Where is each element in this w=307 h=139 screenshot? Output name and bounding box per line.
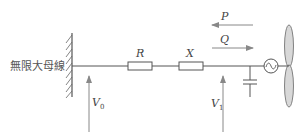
reactance-label: X — [185, 47, 195, 60]
busbar-label: 無限大母線 — [10, 59, 65, 73]
resistor-label: R — [135, 47, 144, 60]
wind-turbine-blades-icon — [278, 25, 294, 107]
resistor — [128, 62, 152, 70]
voltage-v0-label: V0 — [92, 96, 104, 111]
generator-icon — [264, 59, 278, 73]
power-system-diagram: 無限大母線 R X P Q V0 V1 — [0, 0, 307, 139]
reactance — [179, 62, 203, 70]
reactive-power-label: Q — [220, 33, 229, 46]
infinite-busbar — [66, 33, 72, 98]
capacitor — [243, 66, 257, 97]
voltage-v1-label: V1 — [211, 97, 223, 112]
active-power-label: P — [220, 10, 229, 23]
